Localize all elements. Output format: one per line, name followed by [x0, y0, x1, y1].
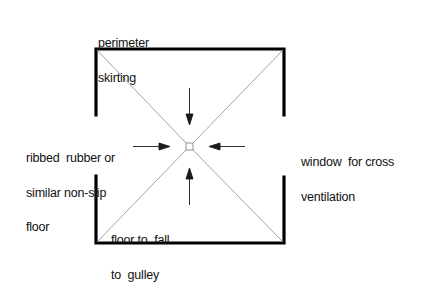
label-window-ventilation: window for cross ventilation [301, 134, 394, 215]
label-floor-fall: floor to fall to gulley [111, 212, 169, 286]
arrow-left [209, 143, 245, 150]
arrow-down [186, 88, 193, 125]
label-perimeter-skirting: perimeter skirting [98, 15, 149, 96]
arrow-right [133, 143, 170, 150]
arrow-up [186, 168, 193, 205]
label-floor-material: ribbed rubber or similar non-slip floor [26, 130, 115, 245]
gulley-drain [186, 143, 193, 150]
